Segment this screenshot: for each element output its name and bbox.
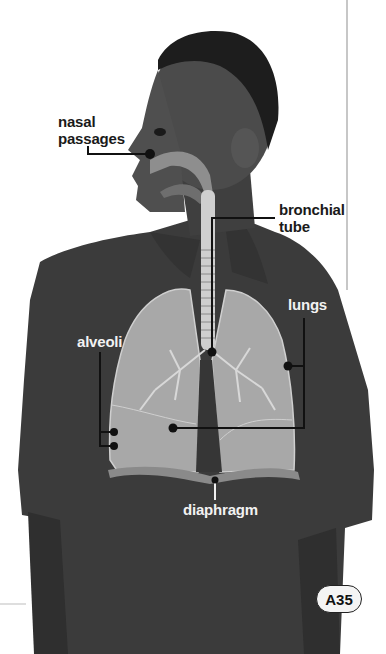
dot-nasal [145,149,155,159]
diagram-illustration [0,0,386,654]
dot-lungs-upper [284,362,293,371]
dot-alveoli-1 [110,428,118,436]
dot-alveoli-2 [110,442,118,450]
label-nasal-line1: nasal [58,113,125,130]
dot-diaphragm [212,477,219,484]
label-bronchial-line1: bronchial [279,201,345,218]
page-number-badge: A35 [316,585,362,613]
eye [154,128,166,136]
respiratory-diagram: nasal passages bronchial tube lungs alve… [0,0,386,654]
dot-bronchial [208,348,217,357]
label-bronchial-line2: tube [279,218,345,235]
label-bronchial-tube: bronchial tube [279,201,345,235]
label-diaphragm: diaphragm [183,501,258,518]
label-alveoli: alveoli [77,333,122,350]
label-nasal-line2: passages [58,130,125,147]
ear [231,128,259,168]
label-lungs: lungs [288,296,327,313]
label-nasal-passages: nasal passages [58,113,125,147]
dot-lungs-lower [169,424,178,433]
